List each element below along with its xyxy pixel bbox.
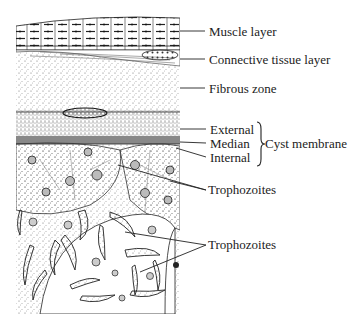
label-median: Median [210, 137, 250, 151]
cyst-illustration [0, 0, 356, 328]
label-muscle-layer: Muscle layer [209, 25, 277, 39]
label-connective-tissue-layer: Connective tissue layer [209, 53, 330, 67]
connective-nucleus [142, 50, 178, 60]
tissue-layers [16, 17, 180, 314]
muscle-layer-shape [16, 17, 180, 50]
label-trophozoites-upper: Trophozoites [208, 183, 276, 197]
label-fibrous-zone: Fibrous zone [209, 82, 277, 96]
label-trophozoites-lower: Trophozoites [208, 238, 276, 252]
label-internal: Internal [210, 151, 250, 165]
dark-cell [173, 262, 179, 268]
label-cyst-membrane: Cyst membrane [265, 137, 347, 151]
membrane-nucleus [63, 108, 107, 118]
label-external: External [210, 123, 254, 137]
